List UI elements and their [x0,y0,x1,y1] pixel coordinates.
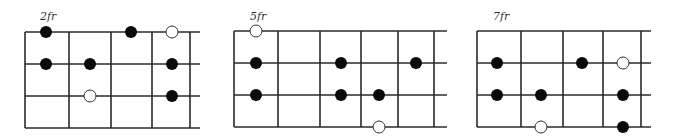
root-note-open-dot [535,121,547,133]
note-filled-dot [491,89,503,101]
note-filled-dot [166,58,178,70]
root-note-open-dot [617,57,629,69]
note-filled-dot [40,26,52,38]
note-filled-dot [84,58,96,70]
note-filled-dot [491,57,503,69]
fretboard-2 [234,25,447,133]
note-filled-dot [373,89,385,101]
note-filled-dot [410,57,422,69]
note-filled-dot [125,26,137,38]
fretboard-1 [25,26,200,128]
note-filled-dot [40,58,52,70]
root-note-open-dot [166,26,178,38]
note-filled-dot [166,90,178,102]
root-note-open-dot [84,90,96,102]
note-filled-dot [250,89,262,101]
fretboard-diagrams-canvas [0,0,673,139]
fretboard-3 [477,31,651,133]
note-filled-dot [335,89,347,101]
note-filled-dot [576,57,588,69]
note-filled-dot [535,89,547,101]
root-note-open-dot [250,25,262,37]
root-note-open-dot [373,121,385,133]
note-filled-dot [335,57,347,69]
note-filled-dot [617,89,629,101]
note-filled-dot [250,57,262,69]
note-filled-dot [617,121,629,133]
